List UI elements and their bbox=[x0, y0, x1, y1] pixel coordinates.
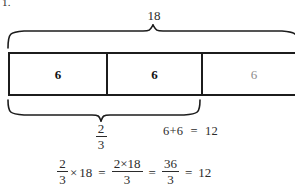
fraction-numerator: 2 bbox=[96, 122, 107, 135]
fraction-denominator: 3 bbox=[165, 173, 176, 186]
bar-segment-value: 6 bbox=[55, 68, 62, 81]
total-label: 18 bbox=[139, 8, 169, 24]
bar-segment-value: 6 bbox=[251, 68, 258, 81]
side-sum-equals: = bbox=[190, 124, 197, 138]
side-sum-left: 6+6 bbox=[163, 124, 183, 138]
bar-segment: 6 bbox=[201, 54, 295, 94]
fraction-numerator: 2×18 bbox=[112, 157, 143, 170]
equation-factor: 18 bbox=[79, 165, 92, 181]
equation-fraction-lhs: 2 3 bbox=[57, 157, 68, 187]
side-sum-right: 12 bbox=[205, 124, 218, 138]
equation-fraction-middle: 2×18 3 bbox=[112, 157, 143, 187]
bar-segment: 6 bbox=[106, 54, 201, 94]
fraction-numerator: 2 bbox=[57, 157, 68, 170]
fraction-numerator: 36 bbox=[162, 157, 179, 170]
equals-sign-3: = bbox=[185, 165, 192, 181]
bottom-brace bbox=[8, 100, 200, 121]
bar-segment: 6 bbox=[10, 54, 106, 94]
final-equation: 2 3 × 18 = 2×18 3 = 36 3 = 12 bbox=[56, 158, 212, 188]
side-sum: 6+6 = 12 bbox=[163, 124, 218, 139]
equals-sign-1: = bbox=[98, 165, 105, 181]
brace-fraction: 2 3 bbox=[86, 123, 116, 153]
equation-result: 12 bbox=[198, 165, 211, 181]
equals-sign-2: = bbox=[149, 165, 156, 181]
fraction-denominator: 3 bbox=[57, 173, 68, 186]
multiplication-sign: × bbox=[70, 165, 77, 181]
bar-model: 6 6 6 bbox=[8, 52, 295, 96]
worksheet-canvas: 1. 18 6 6 6 2 3 6+6 = 12 bbox=[0, 0, 295, 195]
top-brace bbox=[8, 25, 295, 48]
equation-fraction-reduced: 36 3 bbox=[162, 157, 179, 187]
bar-segment-value: 6 bbox=[151, 68, 158, 81]
fraction-denominator: 3 bbox=[122, 173, 133, 186]
fraction-two-thirds: 2 3 bbox=[96, 122, 107, 152]
fraction-denominator: 3 bbox=[96, 138, 107, 151]
problem-number: 1. bbox=[2, 0, 11, 8]
